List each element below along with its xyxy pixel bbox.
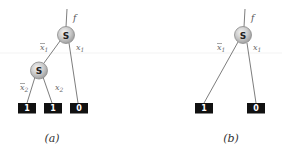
edge-label-a-x1: x1 — [76, 43, 84, 53]
panel-a: f S S x1 x1 x2 x2 1 — [18, 9, 88, 145]
edge-label-a-x1-bar: x1 — [40, 43, 48, 53]
edge-label-b-x1: x1 — [253, 43, 261, 53]
edge-label-text: x2 — [55, 83, 64, 93]
leaf-b-1: 1 — [195, 103, 213, 114]
leaf-a-1: 1 — [18, 103, 36, 114]
caption-a: (a) — [44, 132, 59, 145]
output-label-a: f — [72, 13, 78, 23]
leaf-value: 1 — [201, 104, 207, 113]
edge-b-root-to-leaf2 — [247, 43, 256, 103]
leaf-b-2: 0 — [247, 103, 265, 114]
edge-label-text: x1 — [217, 43, 225, 53]
edge-label-a-x2-bar: x2 — [20, 83, 29, 93]
node-label: S — [63, 31, 69, 41]
switch-node-a-root: S — [58, 27, 75, 44]
leaf-value: 1 — [50, 104, 56, 113]
edge-a-root-to-leaf3 — [69, 43, 78, 103]
switch-node-b-root: S — [235, 27, 252, 44]
node-label: S — [36, 66, 42, 76]
output-label-b: f — [250, 13, 256, 23]
edge-label-text: x2 — [20, 83, 29, 93]
edge-a-node2-to-leaf2 — [43, 77, 52, 103]
edge-label-text: x1 — [253, 43, 261, 53]
edge-label-b-x1-bar: x1 — [217, 43, 225, 53]
node-label: S — [240, 31, 246, 41]
output-stem-b — [244, 9, 245, 27]
caption-b: (b) — [223, 132, 239, 145]
panel-b: f S x1 x1 1 0 (b) — [195, 9, 265, 145]
leaf-value: 0 — [76, 104, 82, 113]
leaf-value: 0 — [253, 104, 259, 113]
edge-label-text: x1 — [40, 43, 48, 53]
output-stem-a — [66, 9, 67, 27]
switch-node-a-child: S — [31, 62, 48, 79]
leaf-value: 1 — [24, 104, 30, 113]
edge-label-text: x1 — [76, 43, 84, 53]
leaf-a-3: 0 — [70, 103, 88, 114]
leaf-a-2: 1 — [44, 103, 62, 114]
switch-network-diagram: f S S x1 x1 x2 x2 1 — [0, 0, 282, 155]
edge-label-a-x2: x2 — [55, 83, 64, 93]
